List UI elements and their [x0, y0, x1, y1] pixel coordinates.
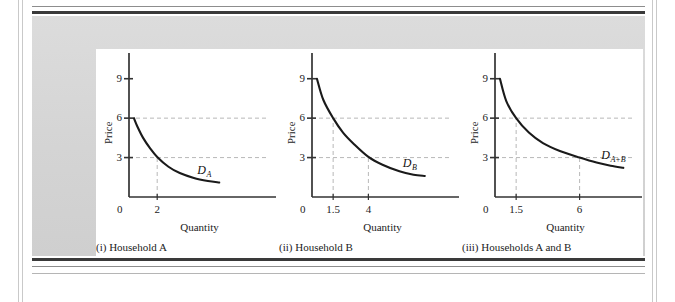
rule-bottom-thin-1 [32, 266, 645, 267]
chart-panel-household-b: 96301.54PriceQuantityDB(ii) Household B [279, 49, 461, 259]
axis-title-price: Price [286, 121, 297, 144]
axis-title-price: Price [469, 121, 480, 144]
axis-title-quantity: Quantity [129, 221, 270, 233]
panel-caption-households-a-and-b: (iii) Households A and B [462, 241, 571, 253]
y-tick-label-9: 9 [473, 73, 488, 84]
origin-label: 0 [483, 204, 489, 215]
y-tick-label-3: 3 [107, 152, 122, 163]
plot-household-b [279, 49, 461, 227]
sheet-rule-left-inner [22, 0, 23, 302]
x-tick-label-1.5: 1.5 [504, 204, 528, 215]
axis-title-price: Price [103, 121, 114, 144]
y-tick-label-3: 3 [473, 152, 488, 163]
x-tick-label-1.5: 1.5 [321, 204, 345, 215]
chart-panel-household-a: 96302PriceQuantityDA(i) Household A [96, 49, 278, 259]
x-tick-label-2: 2 [145, 204, 169, 215]
rule-top-thick [32, 11, 645, 14]
y-tick-label-3: 3 [290, 152, 305, 163]
sheet-rule-right-outer [656, 0, 657, 302]
x-tick-label-4: 4 [356, 204, 380, 215]
figure-block: 96302PriceQuantityDA(i) Household A 9630… [32, 16, 645, 256]
curve-label-household-b: DB [403, 156, 417, 171]
y-tick-label-9: 9 [290, 73, 305, 84]
curve-label-household-a: DA [197, 163, 211, 178]
rule-bottom-thin-2 [32, 273, 645, 274]
page-sheet: 96302PriceQuantityDA(i) Household A 9630… [0, 0, 675, 302]
x-tick-label-6: 6 [568, 204, 592, 215]
rule-bottom-thick [32, 258, 645, 261]
axis-title-quantity: Quantity [312, 221, 453, 233]
chart-canvas: 96302PriceQuantityDA(i) Household A 9630… [96, 49, 643, 259]
panel-caption-household-b: (ii) Household B [279, 241, 353, 253]
plot-household-a [96, 49, 278, 227]
origin-label: 0 [117, 204, 123, 215]
plot-households-a-and-b [462, 49, 644, 227]
sheet-rule-right-inner [652, 0, 653, 302]
sheet-rule-left-outer [18, 0, 19, 302]
rule-top-thin [32, 6, 645, 7]
axis-title-quantity: Quantity [495, 221, 636, 233]
curve-label-households-a-and-b: DA+B [601, 148, 625, 163]
origin-label: 0 [300, 204, 306, 215]
chart-panel-households-a-and-b: 96301.56PriceQuantityDA+B(iii) Household… [462, 49, 644, 259]
y-tick-label-9: 9 [107, 73, 122, 84]
panel-caption-household-a: (i) Household A [96, 241, 167, 253]
